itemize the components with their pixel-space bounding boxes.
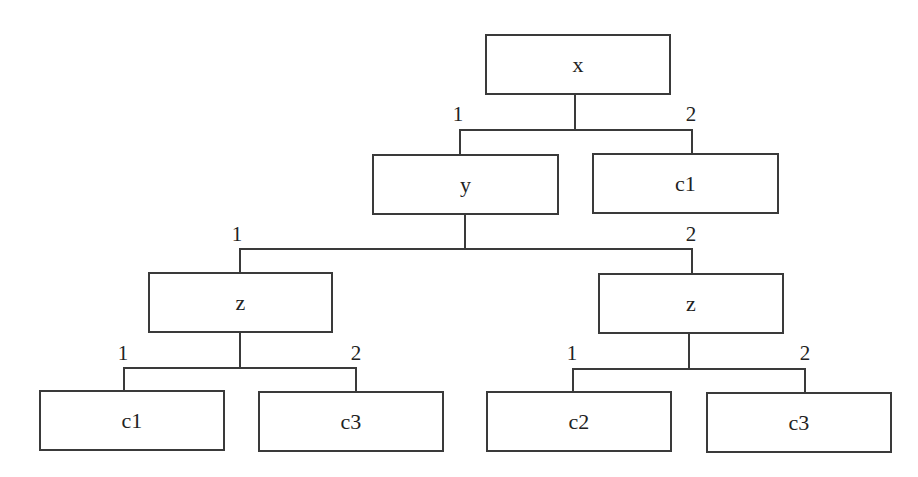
edge-label: 1 <box>118 343 129 364</box>
node-x: x <box>485 34 671 95</box>
edge-label: 2 <box>686 224 697 245</box>
node-label: c1 <box>122 408 143 434</box>
node-label: z <box>686 291 696 317</box>
connector <box>688 333 690 370</box>
connector <box>804 368 806 393</box>
connector <box>691 248 693 274</box>
connector <box>464 214 466 250</box>
connector <box>355 367 357 392</box>
node-z-left: z <box>148 272 333 333</box>
edge-label: 2 <box>686 104 697 125</box>
node-c3-leaf: c3 <box>706 392 892 453</box>
node-c3-leaf: c3 <box>258 391 444 452</box>
node-y: y <box>372 154 559 215</box>
node-z-right: z <box>598 273 784 334</box>
connector <box>459 129 693 131</box>
node-label: c2 <box>569 409 590 435</box>
node-c1-leaf: c1 <box>39 390 225 451</box>
edge-label: 2 <box>800 343 811 364</box>
edge-label: 1 <box>232 224 243 245</box>
connector <box>691 129 693 154</box>
node-c2-leaf: c2 <box>486 391 672 452</box>
connector <box>239 332 241 369</box>
node-label: c3 <box>789 410 810 436</box>
connector <box>459 129 461 155</box>
node-label: c1 <box>675 171 696 197</box>
connector <box>239 248 241 273</box>
edge-label: 1 <box>453 104 464 125</box>
node-c1-leaf: c1 <box>592 153 779 214</box>
edge-label: 1 <box>567 343 578 364</box>
node-label: z <box>236 290 246 316</box>
connector <box>572 368 806 370</box>
connector <box>123 367 357 369</box>
connector <box>574 94 576 130</box>
connector <box>572 368 574 392</box>
node-label: y <box>460 172 471 198</box>
connector <box>239 248 693 250</box>
edge-label: 2 <box>351 343 362 364</box>
connector <box>123 367 125 391</box>
node-label: c3 <box>341 409 362 435</box>
node-label: x <box>573 52 584 78</box>
